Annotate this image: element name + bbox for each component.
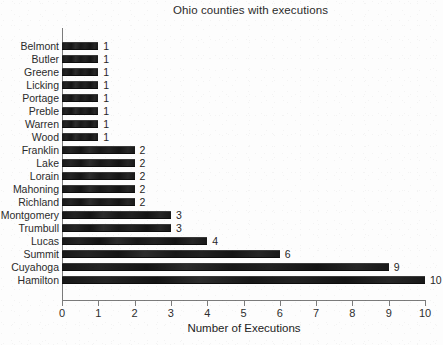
bar-value-label: 2 [140, 196, 146, 209]
y-axis-label-summit: Summit [0, 248, 62, 261]
bar-lucas [62, 237, 207, 245]
bar-value-label: 4 [212, 235, 218, 248]
x-tick-label: 5 [229, 307, 259, 319]
x-tick-label: 7 [301, 307, 331, 319]
bar-row: 1 [62, 105, 425, 118]
x-tick [62, 301, 63, 306]
bar-row: 1 [62, 92, 425, 105]
bar-row: 2 [62, 183, 425, 196]
y-axis-label-cuyahoga: Cuyahoga [0, 261, 62, 274]
x-tick [352, 301, 353, 306]
bar-lake [62, 159, 135, 167]
bar-row: 10 [62, 274, 425, 287]
x-tick-label: 10 [410, 307, 440, 319]
x-tick [389, 301, 390, 306]
bar-warren [62, 120, 98, 128]
bar-licking [62, 81, 98, 89]
bar-row: 6 [62, 248, 425, 261]
y-axis-label-preble: Preble [0, 105, 62, 118]
x-tick-label: 4 [192, 307, 222, 319]
bar-row: 2 [62, 144, 425, 157]
y-axis-label-licking: Licking [0, 79, 62, 92]
y-axis-label-montgomery: Montgomery [0, 209, 62, 222]
bar-value-label: 2 [140, 170, 146, 183]
bar-row: 1 [62, 118, 425, 131]
x-tick [135, 301, 136, 306]
bar-summit [62, 250, 280, 258]
bar-row: 2 [62, 196, 425, 209]
bar-richland [62, 198, 135, 206]
bar-preble [62, 107, 98, 115]
x-tick [316, 301, 317, 306]
bar-value-label: 1 [103, 118, 109, 131]
x-tick-label: 6 [265, 307, 295, 319]
bar-row: 9 [62, 261, 425, 274]
bar-value-label: 1 [103, 92, 109, 105]
y-axis-label-lake: Lake [0, 157, 62, 170]
bar-value-label: 1 [103, 131, 109, 144]
x-axis-title: Number of Executions [62, 322, 426, 334]
bar-montgomery [62, 211, 171, 219]
y-axis-label-portage: Portage [0, 92, 62, 105]
bar-value-label: 10 [430, 274, 442, 287]
bar-value-label: 1 [103, 105, 109, 118]
bar-value-label: 2 [140, 144, 146, 157]
x-tick [98, 301, 99, 306]
bar-mahoning [62, 185, 135, 193]
bar-row: 4 [62, 235, 425, 248]
bar-value-label: 2 [140, 157, 146, 170]
x-tick-label: 9 [374, 307, 404, 319]
bar-row: 1 [62, 53, 425, 66]
bar-value-label: 6 [285, 248, 291, 261]
bar-value-label: 3 [176, 222, 182, 235]
bar-row: 1 [62, 79, 425, 92]
bar-cuyahoga [62, 263, 389, 271]
y-axis-label-belmont: Belmont [0, 40, 62, 53]
bar-value-label: 9 [394, 261, 400, 274]
y-axis-label-lorain: Lorain [0, 170, 62, 183]
bar-row: 2 [62, 170, 425, 183]
bar-row: 2 [62, 157, 425, 170]
x-tick [244, 301, 245, 306]
y-axis-label-franklin: Franklin [0, 144, 62, 157]
bar-row: 1 [62, 131, 425, 144]
bar-value-label: 1 [103, 79, 109, 92]
y-axis-label-greene: Greene [0, 66, 62, 79]
x-tick-label: 0 [47, 307, 77, 319]
bar-greene [62, 68, 98, 76]
x-tick [207, 301, 208, 306]
x-tick [171, 301, 172, 306]
x-tick [280, 301, 281, 306]
bar-butler [62, 55, 98, 63]
bar-chart-figure: Ohio counties with executions BelmontBut… [0, 0, 443, 345]
bar-hamilton [62, 276, 425, 284]
y-axis-label-richland: Richland [0, 196, 62, 209]
y-axis-label-warren: Warren [0, 118, 62, 131]
bar-lorain [62, 172, 135, 180]
y-axis-label-lucas: Lucas [0, 235, 62, 248]
x-tick [425, 301, 426, 306]
x-tick-label: 8 [337, 307, 367, 319]
bar-value-label: 3 [176, 209, 182, 222]
bar-wood [62, 133, 98, 141]
x-tick-label: 2 [120, 307, 150, 319]
plot-area: 11111111222223346910 012345678910 [62, 28, 425, 300]
bar-row: 1 [62, 40, 425, 53]
y-axis-category-labels: BelmontButlerGreeneLickingPortagePrebleW… [0, 28, 62, 300]
bar-value-label: 1 [103, 53, 109, 66]
bar-value-label: 1 [103, 40, 109, 53]
bar-trumbull [62, 224, 171, 232]
y-axis-label-wood: Wood [0, 131, 62, 144]
bar-franklin [62, 146, 135, 154]
bar-value-label: 1 [103, 66, 109, 79]
x-tick-label: 1 [83, 307, 113, 319]
chart-title: Ohio counties with executions [0, 4, 443, 16]
bar-belmont [62, 42, 98, 50]
bar-row: 1 [62, 66, 425, 79]
y-axis-label-trumbull: Trumbull [0, 222, 62, 235]
x-tick-label: 3 [156, 307, 186, 319]
bar-portage [62, 94, 98, 102]
y-axis-label-butler: Butler [0, 53, 62, 66]
bar-value-label: 2 [140, 183, 146, 196]
y-axis-label-hamilton: Hamilton [0, 274, 62, 287]
